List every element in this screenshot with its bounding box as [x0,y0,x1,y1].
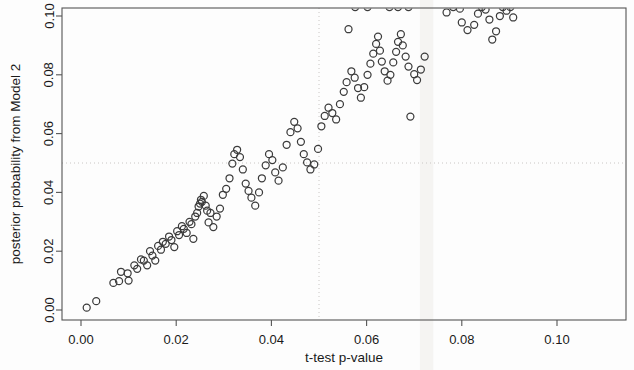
y-tick-label: 0.02 [42,239,57,264]
x-tick-label: 0.06 [354,332,379,347]
y-tick-label: 0.10 [42,3,57,28]
x-axis-label: t-test p-value [305,350,383,365]
y-tick-label: 0.06 [42,121,57,146]
x-tick-label: 0.02 [164,332,189,347]
x-tick-label: 0.00 [68,332,93,347]
plot-canvas: 0.000.020.040.060.080.10 0.000.020.040.0… [0,0,634,370]
y-tick-label: 0.08 [42,62,57,87]
figure-background [0,0,634,370]
x-tick-label: 0.08 [449,332,474,347]
y-axis-label: posterior probability from Model 2 [8,64,23,264]
x-tick-label: 0.04 [259,332,284,347]
x-tick-label: 0.10 [544,332,569,347]
scatter-plot-figure: 0.000.020.040.060.080.10 0.000.020.040.0… [0,0,634,370]
y-tick-label: 0.04 [42,180,57,205]
y-tick-label: 0.00 [42,297,57,322]
